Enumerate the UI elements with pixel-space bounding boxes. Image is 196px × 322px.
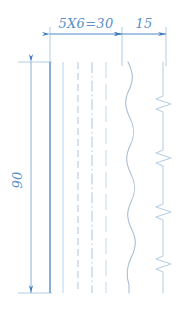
dim-label-15: 15 (135, 16, 152, 31)
vertical-dim-label: 90 (10, 171, 25, 188)
zigzag-break-line (156, 62, 171, 293)
vertical-dimension-90: 90 (10, 62, 52, 293)
drawing-sheet: 90 5X6=30 15 (0, 0, 196, 322)
wavy-break-line (126, 62, 136, 293)
technical-drawing-canvas: 90 5X6=30 15 (0, 0, 196, 322)
horizontal-dimension-group: 5X6=30 15 (50, 16, 166, 66)
dim-label-5x6-30: 5X6=30 (58, 16, 113, 31)
line-samples-group (50, 62, 171, 293)
